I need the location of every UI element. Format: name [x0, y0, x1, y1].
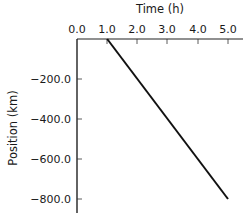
position-time-chart: Time (h) 0.0 1.0 2.0 3.0 4.0 5.0 −200.0 …	[0, 0, 252, 222]
y-tick-label: −200.0	[30, 73, 71, 86]
x-axis-title: Time (h)	[135, 2, 184, 16]
x-tick-label: 1.0	[98, 23, 116, 36]
x-ticks	[107, 39, 228, 44]
y-tick-label: −800.0	[30, 193, 71, 206]
y-tick-labels: −200.0 −400.0 −600.0 −800.0	[30, 73, 71, 206]
x-tick-label: 3.0	[158, 23, 176, 36]
y-axis-title: Position (km)	[6, 90, 20, 165]
y-tick-label: −400.0	[30, 113, 71, 126]
y-ticks	[77, 79, 82, 199]
x-tick-label: 4.0	[189, 23, 207, 36]
x-tick-labels: 0.0 1.0 2.0 3.0 4.0 5.0	[68, 23, 237, 36]
position-line	[107, 39, 228, 199]
x-tick-label: 2.0	[128, 23, 146, 36]
x-tick-label: 5.0	[219, 23, 237, 36]
y-tick-label: −600.0	[30, 153, 71, 166]
x-tick-label: 0.0	[68, 23, 86, 36]
